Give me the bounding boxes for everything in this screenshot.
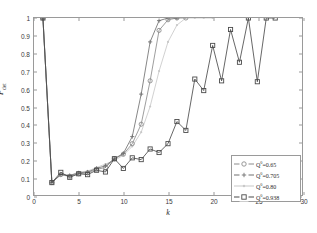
data-point-dot: [158, 70, 160, 72]
y-tick-mark: [34, 107, 37, 108]
x-tick-mark-top: [259, 18, 260, 21]
data-point-dot: [167, 41, 169, 43]
x-tick-label: 0: [32, 198, 36, 205]
legend-item-1[interactable]: Q0=0.705: [232, 169, 300, 180]
legend-item-0[interactable]: Q0=0.65: [232, 158, 300, 169]
y-tick-mark: [34, 35, 37, 36]
y-tick-mark: [34, 143, 37, 144]
data-point-dot: [149, 105, 151, 107]
x-tick-mark: [304, 192, 305, 195]
data-point-plus: [148, 40, 152, 44]
legend-marker-circle-icon: [240, 159, 249, 168]
x-tick-label: 30: [300, 198, 307, 205]
y-tick-label: 1: [26, 15, 30, 22]
y-tick-mark: [34, 53, 37, 54]
x-tick-label: 10: [120, 198, 127, 205]
data-point-plus: [242, 172, 246, 176]
y-tick-mark-right: [299, 89, 302, 90]
legend-sample-square-icon: [234, 191, 254, 202]
legend-item-2[interactable]: Q0=0.80: [232, 180, 300, 191]
y-tick-label: 0.4: [21, 122, 30, 129]
x-tick-mark: [79, 192, 80, 195]
series-1: [41, 18, 179, 185]
series-line: [43, 18, 213, 183]
data-point-circle: [242, 161, 246, 165]
y-tick-label: 0: [26, 194, 30, 201]
legend-marker-plus-icon: [240, 170, 249, 179]
y-tick-label: 0.5: [21, 104, 30, 111]
figure-root: 00.10.20.30.40.50.60.70.80.9105101520253…: [0, 0, 317, 233]
y-axis-label-text: P: [0, 90, 5, 95]
x-tick-label: 15: [165, 198, 172, 205]
x-tick-mark-top: [124, 18, 125, 21]
y-tick-mark: [34, 125, 37, 126]
x-tick-mark: [169, 192, 170, 195]
y-axis-label-subscript: det: [1, 83, 7, 90]
legend-marker-square-icon: [240, 192, 249, 201]
y-tick-label: 0.8: [21, 50, 30, 57]
data-point-dot: [194, 18, 196, 19]
legend-sample-circle-icon: [234, 158, 254, 169]
legend-sample-dot-icon: [234, 180, 254, 191]
y-tick-mark-right: [299, 125, 302, 126]
legend-item-3[interactable]: Q0=0.938: [232, 191, 300, 202]
x-tick-mark-top: [214, 18, 215, 21]
y-tick-label: 0.3: [21, 140, 30, 147]
data-point-dot: [243, 184, 245, 186]
data-point-square: [242, 194, 246, 198]
legend-sample-plus-icon: [234, 169, 254, 180]
y-tick-label: 0.2: [21, 158, 30, 165]
y-tick-mark: [34, 161, 37, 162]
y-tick-mark: [34, 89, 37, 90]
y-tick-label: 0.7: [21, 68, 30, 75]
x-tick-mark-top: [304, 18, 305, 21]
legend-label-0: Q0=0.65: [256, 160, 276, 168]
y-tick-label: 0.9: [21, 32, 30, 39]
x-tick-mark: [34, 192, 35, 195]
y-tick-mark-right: [299, 143, 302, 144]
y-tick-mark-right: [299, 53, 302, 54]
y-tick-label: 0.6: [21, 86, 30, 93]
data-point-plus: [130, 135, 134, 139]
data-point-plus: [139, 92, 143, 96]
y-tick-mark-right: [299, 71, 302, 72]
y-tick-mark: [34, 71, 37, 72]
data-point-dot: [203, 18, 205, 19]
x-tick-mark-top: [34, 18, 35, 21]
legend-marker-dot-icon: [240, 181, 249, 190]
x-tick-mark-top: [169, 18, 170, 21]
data-point-dot: [140, 131, 142, 133]
y-tick-mark-right: [299, 35, 302, 36]
legend-label-1: Q0=0.705: [256, 171, 279, 179]
x-axis-label: k: [33, 208, 303, 217]
y-axis-label: Pdet: [0, 83, 7, 95]
legend-label-3: Q0=0.938: [256, 193, 279, 201]
x-tick-mark-top: [79, 18, 80, 21]
data-point-dot: [176, 24, 178, 26]
y-tick-mark-right: [299, 107, 302, 108]
y-tick-mark: [34, 179, 37, 180]
legend-label-2: Q0=0.80: [256, 182, 276, 190]
chart-legend: Q0=0.65Q0=0.705Q0=0.80Q0=0.938: [231, 155, 301, 202]
y-tick-label: 0.1: [21, 176, 30, 183]
series-2: [42, 18, 214, 184]
y-tick-mark-right: [299, 18, 302, 19]
data-point-plus: [157, 19, 161, 23]
x-tick-label: 20: [210, 198, 217, 205]
x-tick-mark: [214, 192, 215, 195]
x-tick-mark: [124, 192, 125, 195]
x-tick-label: 5: [77, 198, 81, 205]
